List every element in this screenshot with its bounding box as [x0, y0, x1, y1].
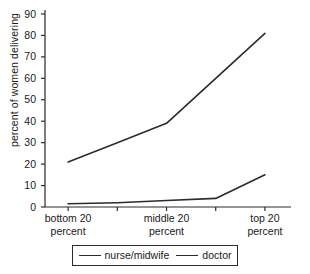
- x-axis-tick-label-line1: middle 20: [144, 212, 190, 225]
- series-line-doctor: [68, 175, 265, 204]
- legend-item-label: nurse/midwife: [105, 250, 170, 261]
- x-axis-tick-label: middle 20percent: [144, 212, 190, 237]
- x-axis-tick-label-line2: percent: [247, 225, 282, 238]
- chart-legend: nurse/midwifedoctor: [72, 245, 238, 266]
- x-axis-tick-label-line2: percent: [45, 225, 92, 238]
- legend-line-swatch-icon: [79, 255, 101, 257]
- legend-item: nurse/midwife: [79, 250, 170, 261]
- legend-item-label: doctor: [202, 250, 231, 261]
- chart-container: percent of women delivering 010203040506…: [0, 0, 310, 274]
- legend-item: doctor: [176, 250, 231, 261]
- x-axis-tick-label: top 20percent: [247, 212, 282, 237]
- series-line-nurse-midwife: [68, 33, 265, 162]
- legend-line-swatch-icon: [176, 255, 198, 257]
- x-axis-tick-label-line1: bottom 20: [45, 212, 92, 225]
- x-axis-tick-label: bottom 20percent: [45, 212, 92, 237]
- x-axis-tick-label-line1: top 20: [247, 212, 282, 225]
- x-axis-tick-label-line2: percent: [144, 225, 190, 238]
